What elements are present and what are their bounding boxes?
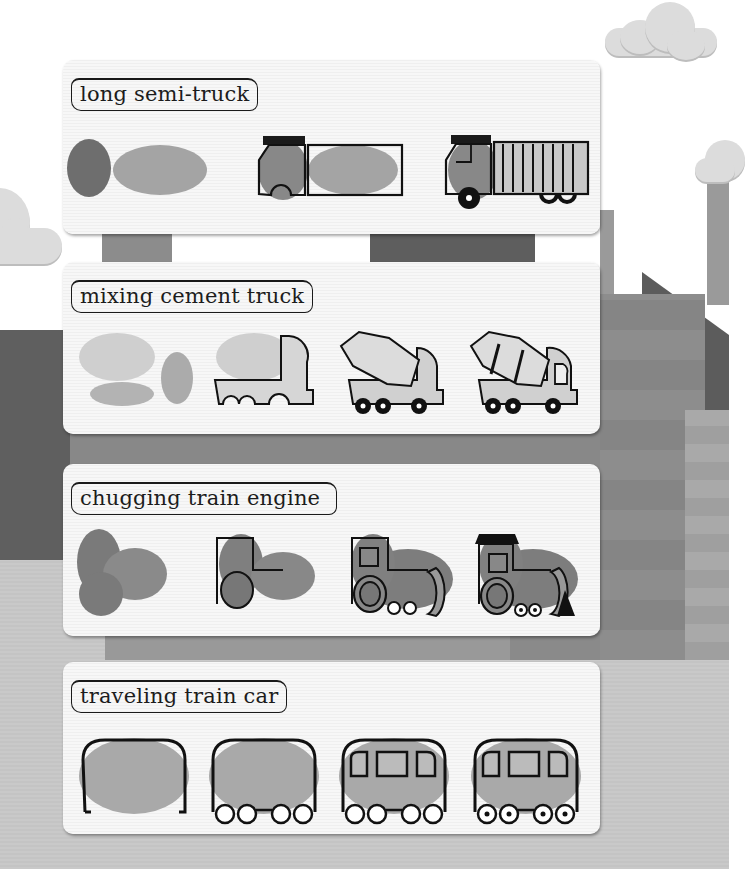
step-row [63, 534, 600, 624]
step-row [63, 132, 600, 222]
cloud-top-right [605, 2, 717, 60]
step-2 [213, 534, 343, 624]
step-2 [209, 734, 339, 824]
step-3 [348, 534, 478, 624]
train-engine-outline-icon [213, 534, 343, 634]
train-engine-complete-icon [473, 534, 603, 634]
train-engine-wheels-icon [348, 534, 478, 634]
train-car-complete-icon [471, 734, 591, 824]
building-strip-1 [102, 230, 172, 265]
section-title: long semi-truck [71, 78, 258, 111]
train-car-outline-icon [79, 734, 199, 824]
step-2 [209, 332, 339, 422]
step-2 [253, 132, 413, 222]
step-row [63, 332, 600, 422]
step-4 [471, 734, 601, 824]
section-card-semi-truck: long semi-truck [63, 60, 600, 234]
building-left-lower [0, 330, 70, 560]
cement-truck-outline-icon [209, 332, 339, 422]
checker-building-right [685, 410, 729, 660]
cloud-left [0, 188, 65, 268]
step-3 [339, 734, 469, 824]
step-row [63, 734, 600, 824]
section-card-train-engine: chugging train engine [63, 464, 600, 636]
section-card-train-car: traveling train car [63, 662, 600, 834]
section-title: chugging train engine [71, 482, 337, 515]
step-1 [75, 534, 205, 624]
step-1 [79, 734, 209, 824]
train-car-windows-icon [339, 734, 459, 824]
tower-mid [600, 210, 614, 300]
truck-outline-icon [253, 132, 413, 222]
train-car-wheels-icon [209, 734, 329, 824]
semi-truck-icon [443, 132, 603, 222]
step-3 [443, 132, 603, 222]
building-strip-2 [370, 230, 535, 262]
cement-truck-complete-icon [469, 332, 599, 422]
step-1 [65, 132, 225, 222]
fingerprint-icon [77, 332, 207, 422]
section-title: traveling train car [71, 680, 287, 713]
step-4 [473, 534, 603, 624]
cloud-right-edge [695, 140, 735, 185]
fingerprint-icon [75, 534, 205, 634]
section-title: mixing cement truck [71, 280, 313, 313]
section-card-cement-truck: mixing cement truck [63, 262, 600, 434]
cement-truck-drum-icon [339, 332, 469, 422]
step-4 [469, 332, 599, 422]
fingerprint-icon [65, 132, 225, 222]
step-1 [77, 332, 207, 422]
step-3 [339, 332, 469, 422]
tower-right [707, 175, 729, 305]
